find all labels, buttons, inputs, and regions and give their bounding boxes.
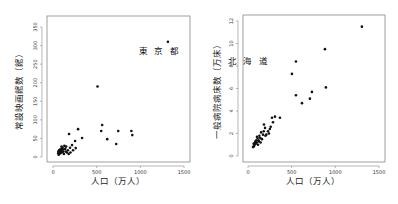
y-axis-title: 一般病院病床数（万床） (212, 40, 222, 139)
annotation-tokyo: 東 京 都 (139, 46, 181, 56)
data-point (279, 116, 282, 119)
y-tick-label: 50 (32, 135, 38, 141)
x-axis: 050010001500 (246, 166, 385, 175)
data-point (257, 143, 260, 146)
y-tick-label: 4 (228, 109, 234, 112)
data-point (252, 146, 255, 149)
data-point (77, 128, 80, 131)
data-point (325, 86, 328, 89)
data-point (115, 143, 118, 146)
x-axis: 050010001500 (51, 166, 190, 175)
y-tick-label: 10 (228, 40, 234, 46)
x-tick-label: 1000 (134, 169, 147, 175)
data-point (68, 133, 71, 136)
data-point (264, 134, 267, 137)
chart-movie-theaters: 050100150200250300350 050010001500 東 京 都… (14, 16, 190, 186)
y-tick-label: 12 (228, 18, 234, 24)
data-point (60, 145, 63, 148)
charts-canvas: 050100150200250300350 050010001500 東 京 都… (0, 0, 398, 204)
data-point (274, 115, 277, 118)
x-tick-label: 500 (287, 169, 297, 175)
chart-hospital-beds: 024681012 050010001500 北 海 道 人口（万人） 一般病院… (212, 15, 385, 186)
y-tick-label: 6 (228, 87, 234, 90)
data-point (263, 123, 266, 126)
data-point (264, 127, 267, 130)
data-point (295, 94, 298, 97)
data-point (361, 25, 364, 28)
y-axis: 050100150200250300350 (32, 22, 42, 158)
x-axis-title: 人口（万人） (91, 176, 145, 186)
data-point (100, 130, 103, 133)
scatter-points (252, 25, 364, 148)
data-point (57, 152, 60, 155)
y-tick-label: 100 (32, 115, 38, 125)
y-tick-label: 2 (228, 132, 234, 135)
data-point (69, 151, 72, 154)
x-axis-title: 人口（万人） (286, 176, 340, 186)
y-tick-label: 0 (228, 154, 234, 157)
y-tick-label: 300 (32, 41, 38, 51)
data-point (269, 128, 272, 131)
plot-frame (47, 16, 190, 162)
x-tick-label: 1500 (178, 169, 191, 175)
x-tick-label: 0 (51, 169, 54, 175)
scatter-points (57, 41, 169, 157)
data-point (256, 136, 259, 139)
data-point (252, 142, 255, 145)
data-point (267, 130, 270, 133)
data-point (96, 85, 99, 88)
data-point (311, 91, 314, 94)
data-point (74, 147, 77, 150)
data-point (268, 132, 271, 135)
data-point (72, 149, 75, 152)
data-point (258, 134, 261, 137)
y-tick-label: 150 (32, 97, 38, 107)
data-point (69, 146, 72, 149)
data-point (259, 141, 262, 144)
x-tick-label: 1500 (373, 169, 386, 175)
data-point (261, 138, 264, 141)
data-point (130, 130, 133, 133)
data-point (64, 150, 67, 153)
data-point (81, 137, 84, 140)
x-tick-label: 0 (246, 169, 249, 175)
data-point (71, 144, 74, 147)
data-point (63, 153, 66, 156)
data-point (309, 97, 312, 100)
y-axis: 024681012 (228, 18, 238, 158)
y-tick-label: 350 (32, 22, 38, 32)
data-point (262, 133, 265, 136)
data-point (167, 41, 170, 44)
plot-frame (243, 15, 385, 162)
annotation-hokkaido: 北 海 道 (228, 56, 270, 66)
data-point (301, 102, 304, 105)
data-point (262, 130, 265, 133)
y-tick-label: 250 (32, 59, 38, 69)
data-point (291, 73, 294, 76)
data-point (295, 60, 298, 63)
data-point (324, 48, 327, 51)
x-tick-label: 1000 (329, 169, 342, 175)
data-point (74, 140, 77, 143)
data-point (106, 138, 109, 141)
data-point (271, 116, 274, 119)
data-point (272, 121, 275, 124)
data-point (269, 125, 272, 128)
x-tick-label: 500 (92, 169, 102, 175)
data-point (260, 131, 263, 134)
y-tick-label: 200 (32, 78, 38, 88)
y-axis-title: 常設映画館数（館） (14, 49, 24, 130)
data-point (117, 130, 120, 133)
y-tick-label: 0 (32, 155, 38, 158)
data-point (101, 124, 104, 127)
data-point (131, 134, 134, 137)
